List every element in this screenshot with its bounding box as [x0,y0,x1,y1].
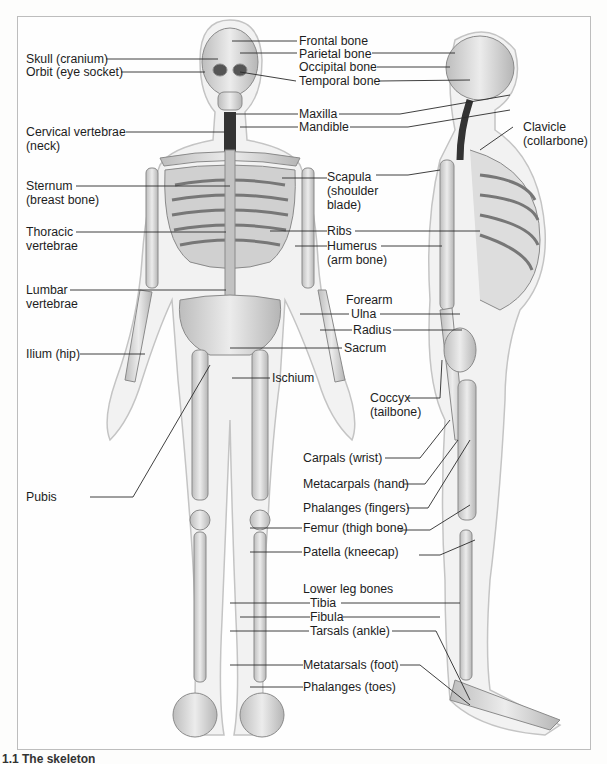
label-forearm: Forearm [346,293,392,307]
label-maxilla: Maxilla [299,107,337,121]
skull-front [202,28,258,96]
label-orbit: Orbit (eye socket) [26,65,123,79]
label-lumbar: Lumbar [26,283,68,297]
label-thoracic-sub: vertebrae [26,239,78,253]
label-fibula: Fibula [310,610,344,624]
label-cervical-vertebrae: Cervical vertebrae [26,125,126,139]
label-phalanges-toes: Phalanges (toes) [303,680,396,694]
label-radius: Radius [353,323,391,337]
figure-caption: 1.1 The skeleton [2,752,95,764]
label-femur: Femur (thigh bone) [303,521,408,535]
label-humerus: Humerus [327,239,377,253]
label-sternum-sub: (breast bone) [26,193,99,207]
label-tibia: Tibia [310,596,336,610]
label-scapula-sub1: (shoulder [327,184,378,198]
label-coccyx-sub: (tailbone) [370,405,421,419]
label-sternum: Sternum [26,179,72,193]
label-patella: Patella (kneecap) [303,545,399,559]
label-scapula-sub2: blade) [327,198,361,212]
label-skull: Skull (cranium) [26,52,108,66]
label-scapula: Scapula [327,170,371,184]
label-phalanges-fingers: Phalanges (fingers) [303,501,410,515]
label-ulna: Ulna [351,307,376,321]
label-lower-leg-bones: Lower leg bones [303,582,393,596]
label-pubis: Pubis [26,490,57,504]
label-tarsals: Tarsals (ankle) [310,624,390,638]
label-coccyx: Coccyx [370,391,410,405]
label-frontal-bone: Frontal bone [299,34,368,48]
label-parietal-bone: Parietal bone [299,47,371,61]
label-ischium: Ischium [272,371,314,385]
label-temporal-bone: Temporal bone [299,74,380,88]
label-metatarsals: Metatarsals (foot) [303,658,399,672]
label-mandible: Mandible [299,120,349,134]
label-metacarpals: Metacarpals (hand) [303,477,409,491]
label-thoracic: Thoracic [26,225,73,239]
label-occipital-bone: Occipital bone [299,60,377,74]
label-lumbar-sub: vertebrae [26,297,78,311]
label-cervical-sub: (neck) [26,139,60,153]
label-humerus-sub: (arm bone) [327,253,387,267]
label-ribs: Ribs [327,224,352,238]
label-clavicle: Clavicle [523,120,566,134]
label-carpals: Carpals (wrist) [303,451,382,465]
label-ilium: Ilium (hip) [26,347,80,361]
label-sacrum: Sacrum [344,341,386,355]
label-clavicle-sub: (collarbone) [523,134,588,148]
